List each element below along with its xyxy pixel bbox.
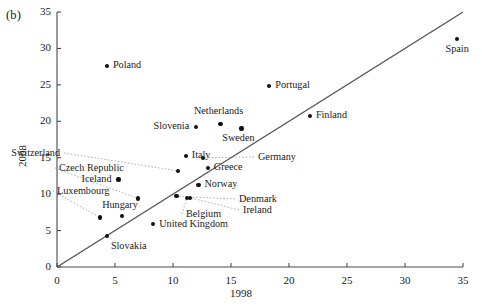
identity-reference-line [57,12,463,267]
y-axis-title: 2008 [16,126,28,186]
x-tick-label: 5 [102,274,128,286]
data-point [218,122,222,126]
x-tick-label: 10 [160,274,186,286]
y-tick-label: 25 [25,78,51,90]
point-label: Spain [446,44,469,54]
point-label: Poland [113,60,141,70]
data-point [176,169,180,173]
point-label: Finland [316,110,347,120]
point-label: Ireland [243,205,272,215]
y-tick-label: 30 [25,41,51,53]
y-tick-label: 20 [25,114,51,126]
x-axis-title: 1998 [0,287,482,299]
point-label: Slovenia [154,121,190,131]
plot-canvas [0,0,482,308]
y-tick-label: 10 [25,187,51,199]
point-label: Slovakia [111,241,147,251]
x-tick-label: 35 [450,274,476,286]
data-point [116,177,120,181]
y-tick-label: 35 [25,5,51,17]
x-tick-label: 20 [276,274,302,286]
x-tick-label: 30 [392,274,418,286]
data-point [105,64,109,68]
data-point [174,194,178,198]
data-point [206,166,210,170]
scatter-plot-figure: (b) 05101520253035 05101520253035 Poland… [0,0,482,308]
point-label: Sweden [222,133,254,143]
data-point [105,234,109,238]
point-label: Germany [258,152,296,162]
point-label: Netherlands [194,106,243,116]
point-label: Hungary [102,200,138,210]
y-tick-label: 0 [25,260,51,272]
point-label: Norway [205,179,238,189]
point-label: Portugal [275,80,310,90]
y-tick-label: 5 [25,224,51,236]
point-label: Greece [214,162,243,172]
data-point [239,126,243,130]
data-point [98,215,102,219]
point-label: United Kingdom [159,219,228,229]
point-label: Denmark [239,194,277,204]
x-tick-label: 0 [44,274,70,286]
x-tick-label: 15 [218,274,244,286]
point-label: Czech Republic [59,163,124,173]
point-label: Luxembourg [57,186,109,196]
point-label: Iceland [82,174,112,184]
x-tick-label: 25 [334,274,360,286]
point-label: Italy [192,150,211,160]
